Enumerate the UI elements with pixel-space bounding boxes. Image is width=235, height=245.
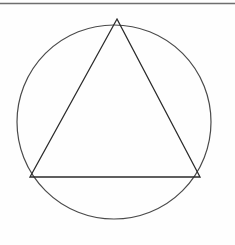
- figure-canvas: Equilateral triangle inscribed in a circ…: [0, 0, 235, 245]
- circumscribed-circle: [17, 25, 211, 219]
- geometry-figure-svg: [0, 0, 235, 245]
- inscribed-triangle: [30, 19, 200, 177]
